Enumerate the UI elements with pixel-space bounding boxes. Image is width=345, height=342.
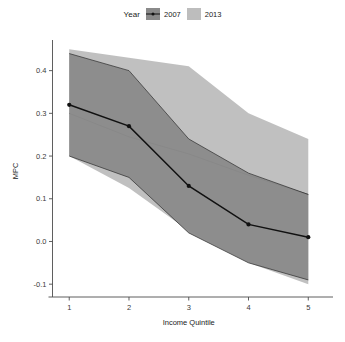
x-tick-label: 3: [187, 303, 191, 312]
series-layer: [67, 49, 310, 284]
data-point: [187, 184, 191, 188]
y-tick-label: 0.2: [36, 152, 46, 161]
x-tick-label: 2: [127, 303, 131, 312]
y-tick-label: 0.0: [36, 237, 46, 246]
data-point: [306, 235, 310, 239]
plot-svg: -0.10.00.10.20.30.412345Income QuintileM…: [0, 0, 345, 342]
x-tick-label: 5: [306, 303, 310, 312]
plot-area: -0.10.00.10.20.30.412345Income QuintileM…: [0, 0, 345, 342]
x-axis-title: Income Quintile: [163, 318, 215, 327]
y-axis-title: MPC: [11, 162, 20, 179]
data-point: [67, 103, 71, 107]
data-point: [127, 124, 131, 128]
data-point: [246, 222, 250, 226]
mpc-income-quintile-chart: Year 2007 2013 -0.10.00.10.20.30.412345I…: [0, 0, 345, 342]
y-tick-label: 0.4: [36, 66, 46, 75]
x-tick-label: 1: [67, 303, 71, 312]
x-tick-label: 4: [246, 303, 250, 312]
y-tick-label: 0.1: [36, 194, 46, 203]
y-tick-label: -0.1: [34, 280, 47, 289]
y-tick-label: 0.3: [36, 109, 46, 118]
